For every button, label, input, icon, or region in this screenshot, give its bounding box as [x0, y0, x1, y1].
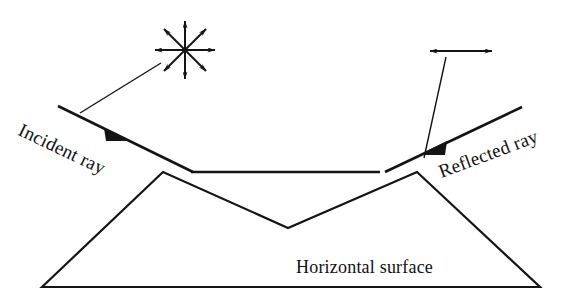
- star-spoke-sw: [164, 50, 185, 71]
- reflected-leader-line: [424, 57, 446, 158]
- optics-reflection-diagram: Incident ray Reflected ray Horizontal su…: [0, 0, 582, 305]
- unpolarized-star-icon: [155, 21, 215, 79]
- surface-outline: [42, 172, 540, 287]
- incident-leader-line: [80, 63, 161, 113]
- star-spoke-se: [185, 50, 206, 71]
- star-spoke-ne: [185, 29, 206, 50]
- reflected-ray-arrowhead: [419, 141, 447, 155]
- horizontal-surface-label: Horizontal surface: [296, 258, 433, 276]
- star-spoke-nw: [164, 29, 185, 50]
